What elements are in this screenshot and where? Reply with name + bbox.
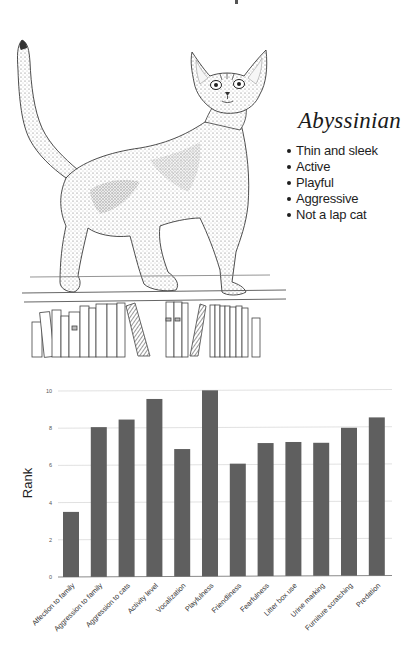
trait-label: Aggressive bbox=[296, 191, 358, 206]
trait-item: Not a lap cat bbox=[287, 207, 378, 223]
y-axis-label: Rank bbox=[20, 467, 35, 498]
trait-item: Active bbox=[287, 159, 378, 175]
bookshelf bbox=[32, 302, 260, 357]
bullet-icon bbox=[287, 197, 291, 201]
bullet-icon bbox=[287, 149, 291, 153]
bar bbox=[341, 428, 357, 576]
x-tick-label: Aggression to family bbox=[52, 581, 104, 633]
trait-label: Thin and sleek bbox=[296, 143, 378, 158]
bar bbox=[369, 417, 385, 575]
x-axis-line bbox=[58, 576, 392, 578]
x-tick-label: Predation bbox=[354, 581, 382, 609]
bar bbox=[146, 399, 162, 577]
trait-item: Thin and sleek bbox=[287, 143, 378, 159]
y-tick-label: 0 bbox=[49, 574, 52, 580]
breed-title: Abyssinian bbox=[298, 108, 401, 134]
bar bbox=[174, 449, 190, 576]
bar bbox=[230, 464, 246, 577]
trait-label: Active bbox=[296, 159, 330, 174]
x-tick-label: Furniture scratching bbox=[303, 581, 354, 632]
bar bbox=[91, 427, 107, 577]
trait-rank-chart: 0246810 Affection to familyAggression to… bbox=[0, 380, 411, 659]
y-tick-label: 2 bbox=[49, 537, 52, 543]
bar bbox=[313, 443, 329, 576]
bullet-icon bbox=[287, 213, 291, 217]
x-axis-labels: Affection to familyAggression to familyA… bbox=[30, 581, 382, 633]
trait-list: Thin and sleek Active Playful Aggressive… bbox=[287, 143, 378, 223]
bar bbox=[63, 512, 79, 577]
gridline bbox=[58, 390, 392, 392]
bullet-icon bbox=[287, 181, 291, 185]
bullet-icon bbox=[287, 165, 291, 169]
cat-body bbox=[60, 120, 249, 295]
trait-item: Aggressive bbox=[287, 191, 378, 207]
x-tick-label: Vocalization bbox=[154, 581, 187, 614]
cat-tail bbox=[17, 40, 78, 178]
bar bbox=[285, 442, 301, 576]
y-tick-label: 8 bbox=[49, 425, 52, 431]
y-tick-label: 10 bbox=[46, 388, 52, 394]
x-tick-label: Friendliness bbox=[209, 581, 243, 615]
cat-head bbox=[191, 50, 267, 113]
y-tick-label: 6 bbox=[49, 462, 52, 468]
y-tick-label: 4 bbox=[49, 500, 52, 506]
trait-label: Playful bbox=[296, 175, 334, 190]
trait-item: Playful bbox=[287, 175, 378, 191]
trait-label: Not a lap cat bbox=[296, 207, 366, 222]
bar bbox=[119, 420, 135, 577]
bar bbox=[202, 390, 218, 576]
cat-illustration bbox=[0, 0, 300, 370]
y-axis-ticks: 0246810 bbox=[46, 388, 52, 580]
bar bbox=[258, 443, 274, 576]
chart-bars bbox=[63, 390, 385, 577]
